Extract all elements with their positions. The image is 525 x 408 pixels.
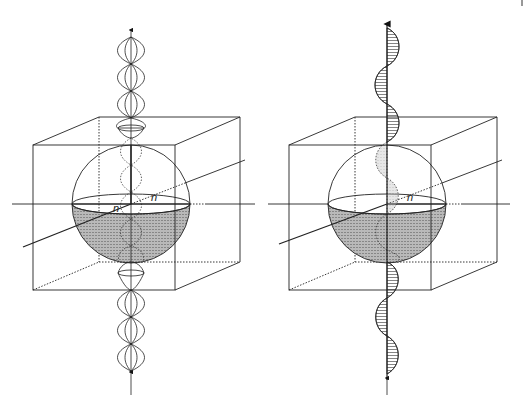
left-panel xyxy=(12,30,255,395)
right-panel xyxy=(268,24,510,395)
diagram-canvas: n n xyxy=(0,0,525,408)
right-label-n-equator: n xyxy=(407,191,413,203)
left-label-n-diagonal: n xyxy=(113,202,119,214)
left-label-n-equator: n xyxy=(151,191,157,203)
